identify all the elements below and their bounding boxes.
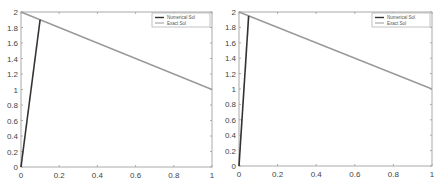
series-line-numerical-sol	[239, 16, 249, 166]
legend-label: Exact Sol	[387, 21, 406, 26]
x-tick-label: 0.2	[54, 171, 66, 180]
y-tick-label: 2	[14, 8, 19, 17]
x-tick-label: 0.4	[311, 170, 323, 179]
x-tick-label: 0.8	[388, 170, 400, 179]
y-tick-label: 2	[232, 8, 237, 17]
legend-label: Numerical Sol	[167, 15, 195, 20]
plot-frame	[239, 12, 432, 166]
y-tick-label: 1	[14, 86, 19, 95]
y-tick-label: 0.2	[7, 148, 19, 157]
y-tick-label: 0.8	[225, 100, 237, 109]
y-tick-label: 1.2	[7, 70, 19, 79]
x-tick-label: 1	[430, 170, 435, 179]
left-plot: 00.20.40.60.8100.20.40.60.811.21.41.61.8…	[0, 0, 221, 188]
y-tick-label: 0.8	[7, 101, 19, 110]
x-tick-label: 0	[237, 170, 242, 179]
y-tick-label: 1.2	[225, 70, 237, 79]
legend-label: Numerical Sol	[387, 15, 415, 20]
x-tick-label: 0.8	[168, 171, 180, 180]
y-tick-label: 1.6	[7, 39, 19, 48]
y-tick-label: 1	[232, 85, 237, 94]
y-tick-label: 1.4	[225, 54, 237, 63]
left-plot-svg: 00.20.40.60.8100.20.40.60.811.21.41.61.8…	[0, 0, 221, 188]
x-tick-label: 1	[210, 171, 215, 180]
right-plot-svg: 00.20.40.60.8100.20.40.60.811.21.41.61.8…	[221, 0, 442, 188]
y-tick-label: 1.8	[225, 23, 237, 32]
y-tick-label: 0.6	[225, 116, 237, 125]
y-tick-label: 0.4	[225, 131, 237, 140]
y-tick-label: 1.4	[7, 55, 19, 64]
legend-label: Exact Sol	[167, 21, 186, 26]
legend: Numerical SolExact Sol	[372, 13, 430, 27]
y-tick-label: 0	[232, 162, 237, 171]
y-tick-label: 1.6	[225, 39, 237, 48]
x-tick-label: 0.4	[92, 171, 104, 180]
legend: Numerical SolExact Sol	[152, 13, 210, 27]
y-tick-label: 0.4	[7, 132, 19, 141]
plot-frame	[21, 12, 212, 167]
x-tick-label: 0.2	[272, 170, 284, 179]
y-tick-label: 0.6	[7, 117, 19, 126]
y-tick-label: 0	[14, 163, 19, 172]
y-tick-label: 1.8	[7, 24, 19, 33]
right-plot: 00.20.40.60.8100.20.40.60.811.21.41.61.8…	[221, 0, 442, 188]
x-tick-label: 0.6	[130, 171, 142, 180]
y-tick-label: 0.2	[225, 147, 237, 156]
x-tick-label: 0	[19, 171, 24, 180]
x-tick-label: 0.6	[349, 170, 361, 179]
series-line-numerical-sol	[21, 20, 40, 167]
